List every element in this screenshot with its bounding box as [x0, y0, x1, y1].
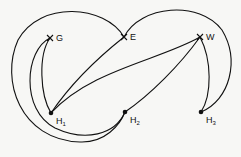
node-label: W — [206, 32, 215, 42]
node-label: H3 — [206, 115, 217, 126]
edge-E-H3-outer — [124, 10, 231, 112]
node-W: W — [197, 32, 215, 42]
node-label: H1 — [56, 116, 67, 127]
cross-icon — [197, 34, 203, 40]
edge-W-H1 — [51, 37, 200, 113]
dot-icon — [199, 110, 204, 115]
graph-diagram: G E W H1 H2 H3 — [0, 0, 241, 157]
node-G: G — [47, 33, 63, 43]
cross-icon — [121, 34, 127, 40]
node-label: E — [130, 32, 136, 42]
node-label: G — [56, 33, 63, 43]
cross-icon — [47, 35, 53, 41]
edge-E-H2-outer — [12, 11, 125, 142]
edge-W-H2 — [125, 37, 200, 112]
edge-W-H3 — [200, 37, 209, 112]
node-H1: H1 — [49, 111, 67, 127]
node-H2: H2 — [123, 110, 141, 126]
node-E: E — [121, 32, 136, 42]
edge-E-H1 — [51, 37, 124, 113]
node-label: H2 — [130, 115, 141, 126]
edge-G-H1 — [42, 38, 51, 113]
node-H3: H3 — [199, 110, 217, 126]
dot-icon — [123, 110, 128, 115]
dot-icon — [49, 111, 54, 116]
